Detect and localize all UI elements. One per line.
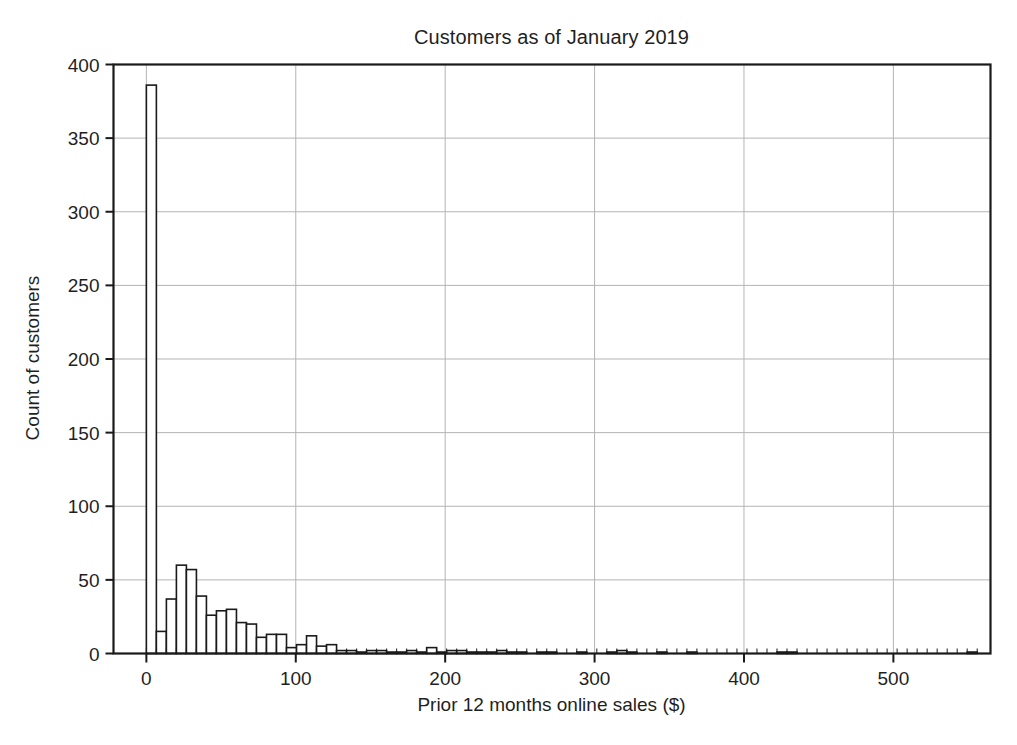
svg-text:400: 400 (68, 55, 100, 76)
histogram-bar (226, 609, 236, 653)
svg-text:100: 100 (280, 668, 312, 689)
histogram-bar (216, 611, 226, 654)
svg-text:250: 250 (68, 275, 100, 296)
histogram-bar (196, 596, 206, 653)
histogram-bar (256, 637, 266, 653)
svg-text:350: 350 (68, 128, 100, 149)
histogram-bar (206, 615, 216, 653)
histogram-bar (317, 646, 327, 653)
histogram-bar (327, 645, 337, 654)
svg-text:300: 300 (579, 668, 611, 689)
svg-text:500: 500 (878, 668, 910, 689)
histogram-bar (176, 565, 186, 653)
svg-text:50: 50 (78, 570, 99, 591)
svg-text:0: 0 (141, 668, 152, 689)
svg-text:100: 100 (68, 496, 100, 517)
svg-text:200: 200 (429, 668, 461, 689)
histogram-bar (236, 623, 246, 654)
histogram-bar (186, 570, 196, 654)
svg-text:400: 400 (728, 668, 760, 689)
histogram-bar (146, 85, 156, 653)
histogram-bar (297, 645, 307, 654)
plot-area: 0501001502002503003504000100200300400500 (0, 0, 1017, 745)
histogram-bar (166, 599, 176, 653)
svg-text:0: 0 (89, 644, 100, 665)
svg-text:150: 150 (68, 423, 100, 444)
axis-ticks (106, 65, 978, 663)
histogram-bar (246, 624, 256, 653)
histogram-bar (307, 636, 317, 654)
histogram-bar (276, 634, 286, 653)
histogram-bar (156, 631, 166, 653)
svg-text:200: 200 (68, 349, 100, 370)
histogram-bar (266, 634, 276, 653)
histogram-bars (146, 85, 977, 653)
histogram-figure: Customers as of January 2019 Count of cu… (0, 0, 1017, 745)
gridlines (114, 65, 991, 654)
svg-text:300: 300 (68, 202, 100, 223)
